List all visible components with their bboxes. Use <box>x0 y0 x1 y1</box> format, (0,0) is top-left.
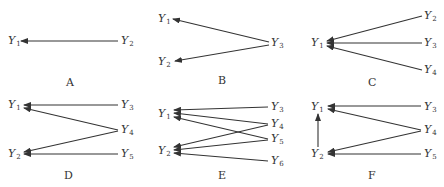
arrow-y4-to-y1 <box>174 113 268 124</box>
node-subscript: 1 <box>166 113 170 121</box>
panel-f: Y1Y3Y4Y2Y5F <box>311 100 437 182</box>
node-subscript: 2 <box>432 15 436 23</box>
node-subscript: 2 <box>166 61 170 69</box>
node-y2: Y2 <box>311 147 324 161</box>
node-y2: Y2 <box>158 144 171 158</box>
arrow-y3-to-y2 <box>175 45 269 61</box>
node-y3: Y3 <box>424 36 437 50</box>
node-subscript: 5 <box>279 138 283 146</box>
node-y4: Y4 <box>121 123 134 137</box>
node-y5: Y5 <box>121 147 134 161</box>
node-y2: Y2 <box>424 9 437 23</box>
panel-d: Y1Y3Y4Y2Y5D <box>8 98 134 182</box>
arrow-y4-to-y2 <box>24 131 118 152</box>
node-subscript: 3 <box>432 42 436 50</box>
node-y4: Y4 <box>424 63 437 77</box>
node-subscript: 2 <box>166 150 170 158</box>
panel-label: E <box>218 169 226 182</box>
node-subscript: 3 <box>279 106 283 114</box>
arrow-y4-to-y2 <box>328 131 421 152</box>
node-subscript: 5 <box>432 153 436 161</box>
node-subscript: 4 <box>279 123 284 131</box>
node-y2: Y2 <box>121 34 134 48</box>
panel-label: B <box>218 74 226 87</box>
node-y1: Y1 <box>158 107 171 121</box>
node-y6: Y6 <box>271 154 284 168</box>
node-y1: Y1 <box>8 34 21 48</box>
panel-c: Y1Y2Y3Y4C <box>311 9 437 89</box>
panel-label: A <box>65 76 75 89</box>
node-y3: Y3 <box>271 36 284 50</box>
node-y1: Y1 <box>311 100 324 114</box>
node-y4: Y4 <box>271 117 284 131</box>
node-subscript: 4 <box>129 129 134 137</box>
arrow-y3-to-y1 <box>173 19 269 42</box>
arrow-y4-to-y1 <box>327 46 422 70</box>
node-subscript: 1 <box>166 18 170 26</box>
panels-group: Y1Y2AY1Y3Y2BY1Y2Y3Y4CY1Y3Y4Y2Y5DY1Y3Y4Y5… <box>8 9 437 182</box>
node-y3: Y3 <box>271 100 284 114</box>
node-subscript: 1 <box>319 42 323 50</box>
path-diagram-canvas: Y1Y2AY1Y3Y2BY1Y2Y3Y4CY1Y3Y4Y2Y5DY1Y3Y4Y5… <box>0 0 444 187</box>
arrow-y6-to-y2 <box>174 153 268 161</box>
node-subscript: 1 <box>319 106 323 114</box>
node-subscript: 4 <box>432 69 437 77</box>
panel-label: C <box>368 76 376 89</box>
node-y3: Y3 <box>121 98 134 112</box>
node-y3: Y3 <box>424 100 437 114</box>
node-subscript: 6 <box>279 160 284 168</box>
node-y1: Y1 <box>311 36 324 50</box>
node-subscript: 1 <box>16 40 20 48</box>
node-y5: Y5 <box>424 147 437 161</box>
arrow-y3-to-y1 <box>174 107 268 110</box>
node-y2: Y2 <box>158 55 171 69</box>
node-y1: Y1 <box>8 98 21 112</box>
arrow-y2-to-y1 <box>327 16 422 41</box>
panel-a: Y1Y2A <box>8 34 134 89</box>
node-subscript: 3 <box>129 104 133 112</box>
node-y2: Y2 <box>8 147 21 161</box>
node-subscript: 2 <box>16 153 20 161</box>
node-subscript: 5 <box>129 153 133 161</box>
arrow-y4-to-y1 <box>328 109 421 130</box>
node-subscript: 3 <box>432 106 436 114</box>
arrow-y5-to-y2 <box>174 140 268 150</box>
node-y1: Y1 <box>158 12 171 26</box>
node-y5: Y5 <box>271 132 284 146</box>
node-subscript: 2 <box>129 40 133 48</box>
node-subscript: 4 <box>432 129 437 137</box>
node-subscript: 2 <box>319 153 323 161</box>
panel-label: D <box>64 169 73 182</box>
arrow-y4-to-y1 <box>24 108 118 130</box>
node-subscript: 1 <box>16 104 20 112</box>
node-y4: Y4 <box>424 123 437 137</box>
node-subscript: 3 <box>279 42 283 50</box>
panel-b: Y1Y3Y2B <box>158 12 284 87</box>
panel-e: Y1Y3Y4Y5Y2Y6E <box>158 100 284 182</box>
panel-label: F <box>368 169 376 182</box>
